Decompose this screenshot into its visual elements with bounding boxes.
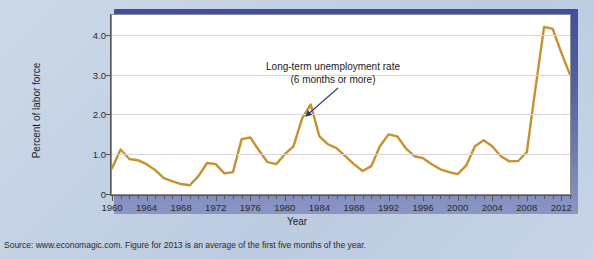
y-axis-line [110, 14, 111, 196]
source-note: Source: www.economagic.com. Figure for 2… [4, 240, 366, 250]
x-tick-label: 2012 [551, 202, 572, 213]
x-tick-minor [302, 196, 303, 199]
x-tick-label: 2000 [447, 202, 468, 213]
x-axis-line [110, 195, 572, 196]
x-tick-label: 1984 [309, 202, 330, 213]
x-tick-major [216, 196, 217, 201]
annotation-line-2: (6 months or more) [228, 73, 438, 86]
x-tick-label: 1988 [343, 202, 364, 213]
x-tick-minor [553, 196, 554, 199]
x-tick-minor [466, 196, 467, 199]
x-tick-minor [380, 196, 381, 199]
chart-figure: 01.02.03.04.0 Percent of labor force 196… [0, 0, 594, 259]
x-axis-label: Year [0, 216, 594, 227]
x-tick-minor [224, 196, 225, 199]
y-tick-label: 2.0 [93, 109, 106, 120]
x-tick-minor [129, 196, 130, 199]
y-tick-label: 4.0 [93, 29, 106, 40]
x-tick-minor [397, 196, 398, 199]
x-tick-minor [311, 196, 312, 199]
x-tick-major [250, 196, 251, 201]
x-tick-minor [449, 196, 450, 199]
x-tick-label: 1968 [171, 202, 192, 213]
x-tick-minor [207, 196, 208, 199]
y-tick-mark [106, 114, 110, 115]
x-tick-minor [371, 196, 372, 199]
y-tick-mark [106, 35, 110, 36]
x-tick-label: 2008 [516, 202, 537, 213]
x-tick-minor [518, 196, 519, 199]
x-tick-minor [268, 196, 269, 199]
x-tick-label: 1964 [136, 202, 157, 213]
annotation-arrow-icon [306, 88, 338, 116]
x-tick-major [319, 196, 320, 201]
x-tick-minor [406, 196, 407, 199]
x-tick-minor [242, 196, 243, 199]
x-tick-minor [155, 196, 156, 199]
x-tick-label: 1976 [240, 202, 261, 213]
y-tick-label: 1.0 [93, 149, 106, 160]
x-tick-minor [138, 196, 139, 199]
page-background: 01.02.03.04.0 Percent of labor force 196… [0, 0, 594, 259]
x-tick-label: 1980 [274, 202, 295, 213]
gridline [112, 35, 570, 36]
x-tick-minor [259, 196, 260, 199]
x-tick-major [147, 196, 148, 201]
y-tick-mark [106, 154, 110, 155]
x-tick-label: 1972 [205, 202, 226, 213]
x-tick-minor [233, 196, 234, 199]
x-tick-minor [570, 196, 571, 199]
x-tick-major [561, 196, 562, 201]
x-tick-major [423, 196, 424, 201]
x-tick-minor [121, 196, 122, 199]
annotation-line-1: Long-term unemployment rate [228, 60, 438, 73]
x-tick-minor [337, 196, 338, 199]
x-tick-major [492, 196, 493, 201]
x-tick-minor [501, 196, 502, 199]
x-tick-minor [432, 196, 433, 199]
x-tick-minor [164, 196, 165, 199]
x-tick-major [285, 196, 286, 201]
x-tick-minor [172, 196, 173, 199]
x-tick-minor [544, 196, 545, 199]
annotation-arrow-svg [296, 86, 346, 126]
x-tick-minor [414, 196, 415, 199]
x-tick-major [354, 196, 355, 201]
x-tick-major [181, 196, 182, 201]
x-tick-label: 2004 [482, 202, 503, 213]
x-tick-minor [345, 196, 346, 199]
x-tick-minor [276, 196, 277, 199]
x-tick-minor [198, 196, 199, 199]
x-tick-minor [328, 196, 329, 199]
x-tick-minor [293, 196, 294, 199]
x-tick-minor [190, 196, 191, 199]
x-tick-label: 1996 [413, 202, 434, 213]
x-tick-minor [475, 196, 476, 199]
y-tick-mark [106, 75, 110, 76]
y-tick-label: 3.0 [93, 69, 106, 80]
x-tick-major [527, 196, 528, 201]
series-annotation: Long-term unemployment rate (6 months or… [228, 60, 438, 86]
x-tick-minor [535, 196, 536, 199]
x-tick-minor [363, 196, 364, 199]
x-tick-label: 1960 [101, 202, 122, 213]
y-axis-label: Percent of labor force [31, 31, 42, 191]
x-tick-minor [484, 196, 485, 199]
x-tick-major [112, 196, 113, 201]
x-tick-major [389, 196, 390, 201]
x-tick-minor [440, 196, 441, 199]
x-tick-major [458, 196, 459, 201]
x-tick-minor [510, 196, 511, 199]
x-tick-label: 1992 [378, 202, 399, 213]
gridline [112, 154, 570, 155]
